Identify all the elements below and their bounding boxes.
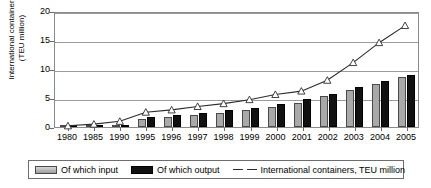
x-axis-tick-mark [198, 127, 199, 131]
y-axis-tick-label: 10 [26, 65, 50, 74]
x-axis-tick-label: 2005 [391, 132, 421, 143]
x-axis-tick-mark [146, 127, 147, 131]
x-axis-tick-mark [355, 127, 356, 131]
x-axis-tick-mark [172, 127, 173, 131]
y-axis-tick-label: 5 [26, 94, 50, 103]
legend-label-output: Of which output [157, 165, 220, 175]
y-axis-tick-label: 0 [26, 123, 50, 132]
x-axis-tick-mark [381, 127, 382, 131]
plot-area [54, 12, 419, 128]
legend-label-input: Of which input [61, 165, 118, 175]
legend-item-output: Of which output [131, 165, 220, 175]
black-bar-swatch-icon [131, 166, 153, 174]
line-series-layer [55, 13, 418, 127]
legend-item-input: Of which input [35, 165, 118, 175]
line-marker-triangle-icon [298, 88, 305, 94]
line-marker-triangle-icon [401, 22, 408, 28]
x-axis-tick-mark [120, 127, 121, 131]
y-axis-title-line-1: International containers [7, 0, 17, 80]
x-axis-tick-labels: 1980198519901995199619971998199920002001… [54, 132, 419, 146]
y-axis-tick-label: 15 [26, 36, 50, 45]
x-axis-tick-mark [224, 127, 225, 131]
x-axis-tick-mark [251, 127, 252, 131]
x-axis-tick-mark [303, 127, 304, 131]
line-series-path [68, 26, 405, 126]
chart-legend: Of which input Of which output Internati… [28, 160, 404, 179]
chart-figure: International containers (TEU million) 0… [0, 0, 431, 188]
line-marker-triangle-icon [324, 77, 331, 84]
line-triangle-swatch-icon [233, 165, 257, 174]
gray-bar-swatch-icon [35, 166, 57, 174]
x-axis-tick-mark [329, 127, 330, 131]
y-axis-tick-label: 20 [26, 7, 50, 16]
legend-label-line: International containers, TEU million [261, 165, 405, 175]
legend-item-line: International containers, TEU million [233, 165, 405, 175]
x-axis-tick-mark [277, 127, 278, 131]
line-marker-triangle-icon [376, 39, 383, 45]
x-axis-tick-mark [407, 127, 408, 131]
